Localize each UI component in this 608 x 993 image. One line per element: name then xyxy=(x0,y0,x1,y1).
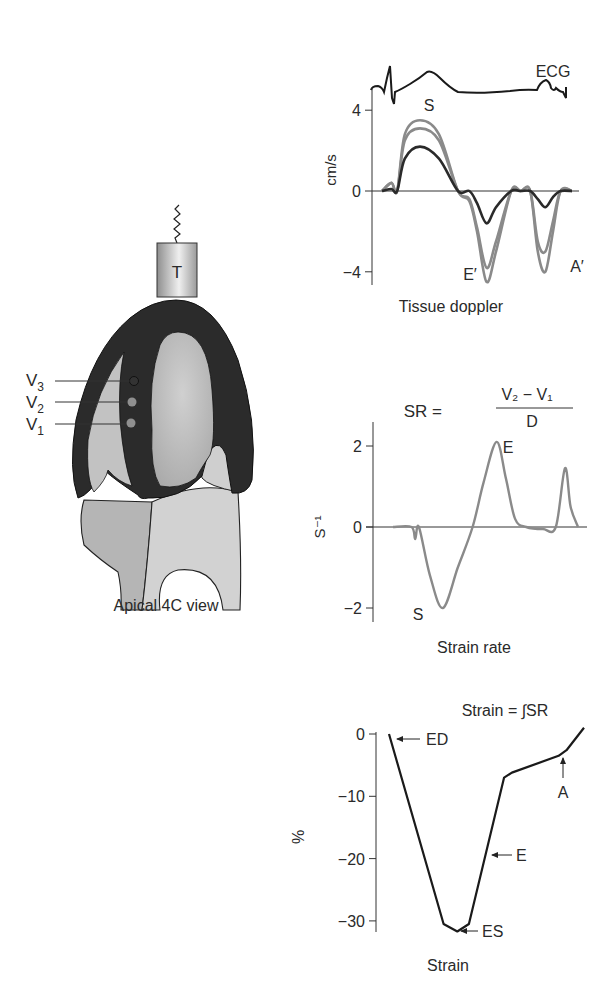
chart-title: Strain rate xyxy=(437,639,511,656)
y-axis-label: % xyxy=(290,830,307,844)
annotation-a-prime: A′ xyxy=(570,258,584,275)
figure-canvas: T V3 V2 V1 Apical 4C view ECG 40−4 cm/s … xyxy=(0,0,608,993)
annotation-s: S xyxy=(413,606,424,623)
y-tick-label: −10 xyxy=(338,788,365,805)
y-axis-label: cm/s xyxy=(322,154,339,186)
sample-point-v1 xyxy=(127,419,136,428)
y-tick-label: 0 xyxy=(352,183,361,200)
ecg-label: ECG xyxy=(536,63,571,80)
heart-caption: Apical 4C view xyxy=(114,597,219,614)
y-axis-label: S⁻¹ xyxy=(311,515,328,538)
formula-numerator: V₂ − V₁ xyxy=(501,386,552,403)
y-tick-label: −2 xyxy=(344,600,362,617)
y-tick-label: 2 xyxy=(353,438,362,455)
arrow-a-icon xyxy=(560,757,566,778)
series-line xyxy=(389,728,584,932)
sample-point-v3 xyxy=(130,377,139,386)
chart-title: Tissue doppler xyxy=(399,298,504,315)
transducer-cable-icon xyxy=(174,205,180,243)
series-line xyxy=(393,442,578,608)
chart-title: Strain xyxy=(427,957,469,974)
y-tick-label: −4 xyxy=(343,264,361,281)
series-line xyxy=(382,147,572,224)
strain-rate-chart: SR = V₂ − V₁ D 20−2 S⁻¹ E S Strain rate xyxy=(311,386,587,656)
annotation-e: E xyxy=(503,439,514,456)
y-tick-label: −30 xyxy=(338,913,365,930)
left-atrium xyxy=(142,488,241,610)
right-atrium xyxy=(81,500,152,610)
annotation-a: A xyxy=(558,784,569,801)
y-tick-label: 4 xyxy=(352,102,361,119)
arrow-e-icon xyxy=(491,852,512,858)
annotation-e: E xyxy=(516,847,527,864)
y-tick-label: −20 xyxy=(338,851,365,868)
y-tick-label: 0 xyxy=(356,726,365,743)
transducer-label: T xyxy=(172,263,182,282)
arrow-ed-icon xyxy=(396,736,420,742)
tissue-doppler-chart: ECG 40−4 cm/s S E′ A′ Tissue doppler xyxy=(322,63,584,315)
left-ventricle xyxy=(151,332,214,487)
annotation-es: ES xyxy=(482,923,503,940)
annotation-s: S xyxy=(424,97,435,114)
strain-chart: Strain = ∫SR 0−10−20−30 % ED ES E A Stra… xyxy=(290,702,584,974)
annotation-ed: ED xyxy=(426,731,448,748)
label-v3: V3 xyxy=(26,371,44,394)
heart-illustration: T V3 V2 V1 Apical 4C view xyxy=(26,205,253,614)
formula-denominator: D xyxy=(526,413,538,430)
y-tick-label: 0 xyxy=(353,519,362,536)
formula-lhs: SR = xyxy=(404,402,442,421)
label-v1: V1 xyxy=(26,415,44,438)
formula: Strain = ∫SR xyxy=(462,702,549,720)
annotation-e-prime: E′ xyxy=(463,266,477,283)
label-v2: V2 xyxy=(26,393,44,416)
sample-point-v2 xyxy=(128,398,137,407)
